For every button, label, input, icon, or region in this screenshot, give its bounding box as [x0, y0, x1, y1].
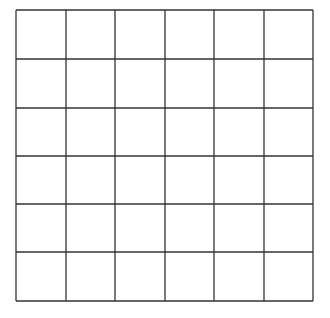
- empty-grid: [0, 0, 330, 318]
- grid-lines: [16, 10, 313, 301]
